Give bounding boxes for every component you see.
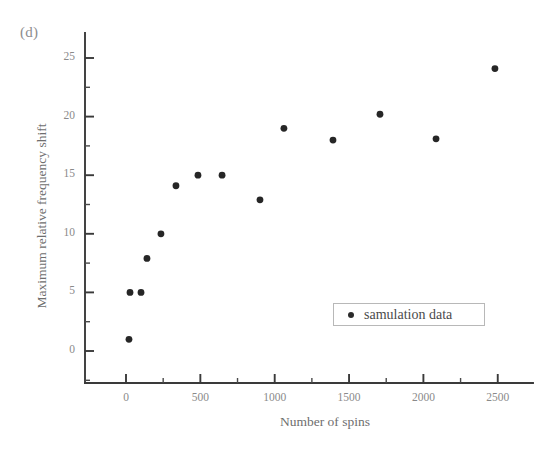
x-axis-tick-label: 2500 [468,391,528,403]
data-point [377,111,384,118]
data-point [126,336,133,343]
data-point [127,289,134,296]
data-point [433,135,440,142]
legend-entry: samulation data [334,304,484,325]
legend-entry-label: samulation data [364,307,452,323]
data-point [492,65,499,72]
data-point [144,255,151,262]
data-point [330,137,337,144]
data-point [195,172,202,179]
data-point [281,125,288,132]
data-point [219,172,226,179]
x-axis-title: Number of spins [205,414,445,430]
series-markers [126,65,499,343]
x-axis-tick-label: 2000 [393,391,453,403]
x-axis-tick-label: 1500 [319,391,379,403]
data-point [173,182,180,189]
data-point [158,230,165,237]
y-axis-title: Maximum relative frequency shift [34,86,50,346]
x-axis-tick-label: 0 [96,391,156,403]
axes-group [85,33,533,383]
x-axis-tick-label: 500 [170,391,230,403]
legend-marker-icon [348,312,354,318]
data-point [138,289,145,296]
legend: samulation data [333,303,485,326]
scatter-plot-figure: (d) 0510152025 05001000150020002500 Maxi… [0,0,560,459]
y-axis-tick-label: 25 [41,50,75,62]
data-point [257,196,264,203]
x-axis-tick-label: 1000 [245,391,305,403]
